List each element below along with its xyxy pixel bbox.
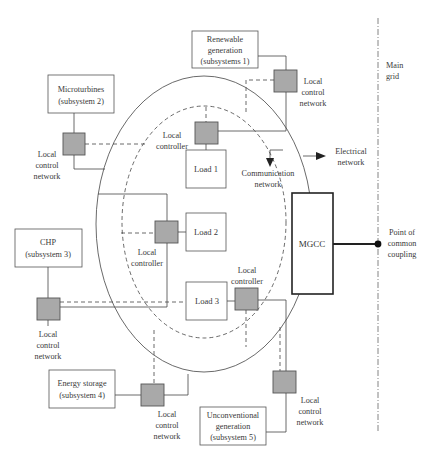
wire [266,393,286,432]
lcn-label-5-line2: control [298,407,322,416]
subsystem-4-line1: Energy storage [57,379,107,388]
local-control-network-node-5 [273,371,296,393]
subsystem-microturbines-box [48,75,114,113]
lcn-label-1-line3: network [300,99,328,108]
local-control-network-node-2 [63,133,85,155]
pcc-label-line2: common [388,239,417,248]
comm-link [246,80,274,113]
communication-network-label-line1: Communication [242,169,295,178]
lcn-label-4-line3: network [154,432,182,441]
electrical-arrow-icon [316,152,326,160]
subsystem-energy-storage-box [49,370,115,408]
microgrid-diagram: Renewable generation (subsystems 1) Loca… [0,0,433,459]
main-grid-label-line2: grid [386,72,399,81]
communication-arrow-icon [266,158,274,167]
subsystem-5-line1: Unconventional [207,411,260,420]
local-controller-load-1 [195,122,218,144]
truncated-caption [34,452,284,459]
lcn-label-3-line2: control [36,341,60,350]
local-controller-label-1-line1: Local [163,131,182,140]
wire [164,374,188,395]
local-controller-load-3 [235,288,258,310]
subsystem-5-line2: generation [216,422,251,431]
local-controller-label-1-line2: controller [156,142,188,151]
subsystem-2-line2: (subsystem 2) [58,97,104,106]
pcc-node [375,241,382,248]
subsystem-2-line1: Microturbines [58,85,104,94]
wire [258,56,286,70]
lcn-label-4-line1: Local [158,410,177,419]
mgcc-label: MGCC [299,239,326,249]
lcn-label-5-line3: network [297,418,325,427]
lcn-label-1-line2: control [301,88,325,97]
local-controller-label-2-line1: Local [138,248,157,257]
local-control-network-node-4 [141,384,164,406]
lcn-label-2-line1: Local [38,150,57,159]
local-controller-label-3-line1: Local [238,266,257,275]
subsystem-4-line2: (subsystem 4) [59,391,105,400]
local-controller-load-2 [155,221,178,243]
local-controller-label-3-line2: controller [231,277,263,286]
subsystem-chp-box [15,229,82,267]
subsystem-5-line3: (subsystem 5) [210,433,256,442]
lcn-label-2-line3: network [34,172,62,181]
main-grid-label-line1: Main [386,61,403,70]
pcc-label-line1: Point of [389,228,415,237]
subsystem-3-line2: (subsystem 3) [25,250,71,259]
subsystem-1-line2: generation [208,46,243,55]
load-3-label: Load 3 [195,296,219,306]
wire [258,300,286,371]
wire [270,150,283,158]
wire [74,155,105,169]
lcn-label-2-line2: control [35,161,59,170]
subsystem-3-line1: CHP [40,238,56,247]
pcc-label-line3: coupling [388,250,417,259]
communication-network-label-line2: network [255,180,283,189]
wire [98,194,167,221]
subsystem-1-line3: (subsystems 1) [201,57,250,66]
electrical-network-label-line1: Electrical [335,147,367,156]
lcn-label-3-line1: Local [39,330,58,339]
subsystem-1-line1: Renewable [207,35,244,44]
load-2-label: Load 2 [194,227,218,237]
local-control-network-node-1 [274,70,297,92]
lcn-label-5-line1: Local [301,396,320,405]
electrical-network-label-line2: network [338,158,366,167]
load-1-label: Load 1 [194,164,218,174]
lcn-label-1-line1: Local [304,77,323,86]
local-control-network-node-3 [37,298,60,320]
lcn-label-3-line3: network [35,352,63,361]
local-controller-label-2-line2: controller [131,259,163,268]
lcn-label-4-line2: control [155,421,179,430]
